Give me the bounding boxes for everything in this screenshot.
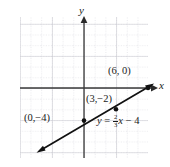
axis-label-y: y (79, 5, 84, 16)
point-label-6-0: (6, 0) (108, 66, 131, 77)
equation-label: y = 2 3 x − 4 (97, 114, 139, 129)
graph-figure: (6, 0) (3,−2) (0,−4) y = 2 3 x − 4 y x (0, 0, 170, 167)
axis-label-x: x (159, 80, 164, 91)
point-6-0 (146, 86, 151, 91)
point-label-3-minus-2: (3,−2) (86, 94, 112, 105)
equation-minus: − (126, 115, 132, 126)
equation-variable: x (118, 115, 123, 126)
equation-constant: 4 (134, 115, 139, 126)
point-3-minus2 (114, 107, 119, 112)
equation-equals: = (104, 115, 110, 126)
coordinate-plane (0, 0, 170, 167)
point-label-0-minus-4: (0,−4) (24, 113, 50, 124)
point-0-minus4 (82, 118, 87, 123)
equation-lhs: y (97, 115, 102, 126)
